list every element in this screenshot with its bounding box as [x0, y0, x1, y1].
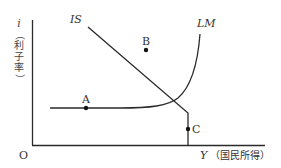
national-income-symbol: Y: [200, 149, 207, 162]
point-b-label: B: [142, 36, 150, 47]
y-axis-label: i （ 利 子 率 ）: [14, 18, 24, 84]
point-b-dot: [144, 48, 148, 52]
point-a-dot: [84, 106, 88, 110]
is-curve-label: IS: [70, 14, 82, 25]
x-axis-label: Y （国民所得）: [200, 150, 270, 161]
point-a-label: A: [82, 94, 90, 105]
y-note-char-1: 利: [14, 40, 24, 51]
origin-label: O: [19, 150, 28, 161]
lm-curve-label: LM: [197, 18, 216, 29]
is-curve: [88, 27, 188, 145]
islm-diagram: [0, 0, 281, 168]
y-note-char-2: 子: [14, 51, 24, 62]
interest-rate-symbol: i: [17, 18, 21, 29]
y-note-close: ）: [14, 74, 25, 84]
x-axis-note: （国民所得）: [210, 150, 270, 161]
y-note-open: （: [14, 30, 25, 40]
y-note-char-3: 率: [14, 62, 24, 73]
point-c-label: C: [192, 124, 200, 135]
point-c-dot: [186, 127, 190, 131]
lm-curve: [50, 34, 200, 108]
